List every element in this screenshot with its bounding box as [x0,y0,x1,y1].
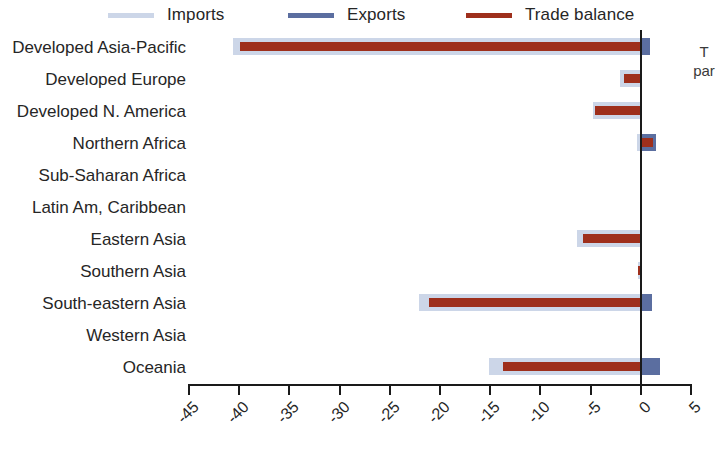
legend-item-trade-balance: Trade balance [466,0,634,30]
row-bars [186,96,705,128]
side-annotation-line2: par [684,61,720,80]
bar-trade-balance [624,74,640,83]
category-label: Developed N. America [17,96,186,128]
row-bars [186,352,705,384]
legend-swatch-imports [108,13,154,18]
x-axis-tick [640,384,642,395]
chart-row: Developed Asia-Pacific [0,32,705,64]
chart-row: Western Asia [0,320,705,352]
legend-swatch-trade-balance [466,13,512,18]
chart-row: Northern Africa [0,128,705,160]
category-label: South-eastern Asia [42,288,186,320]
side-annotation-line1: T [684,42,720,61]
x-axis-tick [590,384,592,395]
bar-trade-balance [429,298,640,307]
bar-trade-balance [240,42,640,51]
x-axis-tick [288,384,290,395]
category-label: Southern Asia [80,256,186,288]
chart-row: Developed Europe [0,64,705,96]
zero-line [640,30,642,385]
category-label: Latin Am, Caribbean [32,192,186,224]
category-label: Eastern Asia [91,224,186,256]
x-axis-tick [238,384,240,395]
category-label: Oceania [123,352,186,384]
bar-exports [640,358,660,375]
x-axis-tick-label: -45 [146,398,203,451]
x-axis-tick-label: -30 [297,398,354,451]
row-bars [186,288,705,320]
chart-row: Oceania [0,352,705,384]
x-axis: -45-40-35-30-25-20-15-10-505 [0,384,705,451]
row-bars [186,160,705,192]
category-label: Sub-Saharan Africa [39,160,186,192]
chart-legend: Imports Exports Trade balance [0,0,705,30]
row-bars [186,256,705,288]
x-axis-tick-label: -40 [196,398,253,451]
x-axis-tick-label: -20 [397,398,454,451]
x-axis-tick [489,384,491,395]
row-bars [186,192,705,224]
x-axis-tick-label: -10 [498,398,555,451]
chart-row: Sub-Saharan Africa [0,160,705,192]
x-axis-tick [539,384,541,395]
legend-item-imports: Imports [108,0,224,30]
category-label: Developed Europe [45,64,186,96]
category-label: Developed Asia-Pacific [12,32,186,64]
x-axis-tick [339,384,341,395]
x-axis-tick-label: -15 [447,398,504,451]
legend-label-trade-balance: Trade balance [525,5,634,25]
legend-item-exports: Exports [288,0,405,30]
x-axis-tick [188,384,190,395]
x-axis-tick-label: -5 [548,398,605,451]
chart-row: Developed N. America [0,96,705,128]
x-axis-tick-label: -35 [247,398,304,451]
legend-swatch-exports [288,13,334,18]
x-axis-tick-label: 0 [598,398,655,451]
x-axis-tick [389,384,391,395]
plot-area: Developed Asia-PacificDeveloped EuropeDe… [0,32,705,384]
legend-label-exports: Exports [347,5,405,25]
chart-row: Latin Am, Caribbean [0,192,705,224]
row-bars [186,128,705,160]
legend-label-imports: Imports [167,5,224,25]
category-label: Western Asia [86,320,186,352]
row-bars [186,64,705,96]
bar-trade-balance [583,234,640,243]
bar-trade-balance [595,106,640,115]
x-axis-tick-label: 5 [648,398,705,451]
category-label: Northern Africa [73,128,186,160]
x-axis-tick [690,384,692,395]
chart-row: South-eastern Asia [0,288,705,320]
chart-row: Eastern Asia [0,224,705,256]
x-axis-tick [439,384,441,395]
side-annotation: T par [684,42,720,80]
bar-trade-balance [503,362,640,371]
chart-row: Southern Asia [0,256,705,288]
row-bars [186,32,705,64]
x-axis-tick-label: -25 [347,398,404,451]
row-bars [186,320,705,352]
row-bars [186,224,705,256]
